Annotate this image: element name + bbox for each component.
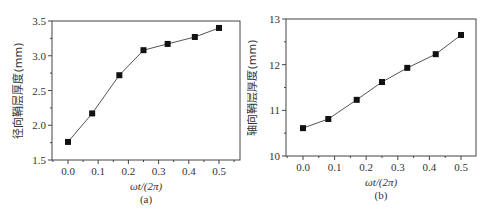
- data-point-marker: [89, 110, 95, 116]
- x-axis-title: ωt/(2π): [130, 180, 163, 193]
- x-tick-label: 0.2: [359, 161, 373, 173]
- data-point-marker: [216, 25, 222, 31]
- series-line: [68, 28, 219, 142]
- x-tick-label: 0.4: [423, 161, 437, 173]
- y-tick-label: 13: [269, 13, 281, 25]
- chart-b-svg: 0.00.10.20.30.40.510111213轴向鞘层厚度(mm)ωt/(…: [247, 0, 494, 213]
- y-tick-label: 3.5: [32, 15, 46, 27]
- data-point-marker: [141, 47, 147, 53]
- x-tick-label: 0.3: [391, 161, 405, 173]
- x-tick-label: 0.3: [152, 165, 166, 177]
- x-tick-label: 0.1: [91, 165, 105, 177]
- x-tick-label: 0.2: [122, 165, 136, 177]
- x-tick-label: 0.5: [212, 165, 226, 177]
- y-tick-label: 2.0: [32, 119, 46, 131]
- data-point-marker: [192, 34, 198, 40]
- data-point-marker: [165, 41, 171, 47]
- data-point-marker: [354, 97, 360, 103]
- x-tick-label: 0.5: [454, 161, 468, 173]
- x-tick-label: 0.1: [328, 161, 342, 173]
- y-axis: 1.52.02.53.03.5: [32, 15, 52, 166]
- chart-panel-b: 0.00.10.20.30.40.510111213轴向鞘层厚度(mm)ωt/(…: [247, 0, 494, 213]
- data-point-marker: [116, 72, 122, 78]
- x-axis-title: ωt/(2π): [365, 176, 398, 189]
- data-point-marker: [325, 116, 331, 122]
- y-axis-title: 轴向鞘层厚度(mm): [247, 39, 259, 135]
- data-point-marker: [300, 125, 306, 131]
- panel-caption: (b): [375, 189, 388, 202]
- y-tick-label: 11: [269, 104, 280, 116]
- x-axis: 0.00.10.20.30.40.5: [53, 160, 234, 177]
- panel-caption: (a): [140, 193, 153, 206]
- y-tick-label: 12: [269, 59, 280, 71]
- plot-frame: [286, 19, 476, 156]
- plot-frame: [52, 21, 240, 160]
- data-point-marker: [458, 32, 464, 38]
- data-point-marker: [433, 51, 439, 57]
- chart-a-svg: 0.00.10.20.30.40.51.52.02.53.03.5径向鞘层厚度(…: [0, 0, 247, 213]
- y-tick-label: 2.5: [32, 85, 46, 97]
- data-point-marker: [379, 79, 385, 85]
- y-axis-title: 径向鞘层厚度(mm): [11, 42, 25, 138]
- x-tick-label: 0.0: [61, 165, 75, 177]
- data-point-marker: [65, 139, 71, 145]
- chart-panel-a: 0.00.10.20.30.40.51.52.02.53.03.5径向鞘层厚度(…: [0, 0, 247, 213]
- y-axis: 10111213: [269, 13, 286, 162]
- x-tick-label: 0.0: [296, 161, 310, 173]
- y-tick-label: 1.5: [32, 154, 46, 166]
- y-tick-label: 3.0: [32, 50, 46, 62]
- x-tick-label: 0.4: [182, 165, 196, 177]
- data-point-marker: [404, 65, 410, 71]
- y-tick-label: 10: [269, 150, 281, 162]
- x-axis: 0.00.10.20.30.40.5: [287, 156, 468, 173]
